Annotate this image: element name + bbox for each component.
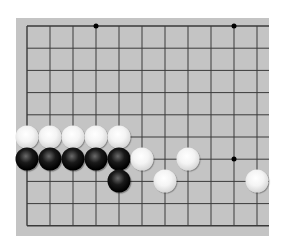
go-board[interactable] [16, 18, 269, 236]
white-stone [16, 126, 39, 149]
black-stone [108, 148, 131, 171]
white-stone [131, 148, 154, 171]
white-stone [177, 148, 200, 171]
black-stone [16, 148, 39, 171]
black-stone [108, 170, 131, 193]
star-point [94, 24, 99, 29]
white-stone [39, 126, 62, 149]
white-stone [154, 170, 177, 193]
star-point [232, 24, 237, 29]
black-stone [39, 148, 62, 171]
black-stone [85, 148, 108, 171]
black-stone [62, 148, 85, 171]
star-point [232, 157, 237, 162]
white-stone [246, 170, 269, 193]
white-stone [62, 126, 85, 149]
white-stone [85, 126, 108, 149]
white-stone [108, 126, 131, 149]
